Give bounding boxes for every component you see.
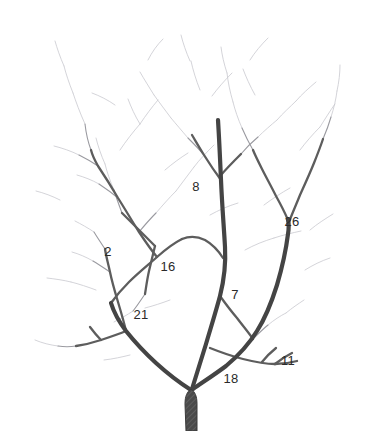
fine-twig-0 bbox=[85, 124, 91, 150]
branch-16-left-long bbox=[91, 150, 157, 257]
branch-21-left-twig bbox=[90, 327, 101, 340]
branch-8-upper-right bbox=[221, 154, 241, 175]
faint-twig-33 bbox=[71, 282, 96, 290]
faint-twig-group bbox=[35, 35, 340, 360]
faint-twig-41 bbox=[165, 153, 188, 170]
label-8: 8 bbox=[192, 180, 199, 193]
fine-twig-5 bbox=[139, 213, 156, 232]
faint-twig-13 bbox=[331, 91, 337, 117]
label-26: 26 bbox=[285, 215, 300, 228]
faint-twig-40 bbox=[92, 93, 115, 105]
faint-twig-22 bbox=[120, 124, 140, 150]
primary-branch-group bbox=[111, 120, 289, 390]
faint-twig-48 bbox=[320, 104, 335, 127]
branch-8-upper-left bbox=[192, 135, 221, 180]
branch-7-split bbox=[220, 296, 253, 339]
faint-twig-38 bbox=[181, 35, 190, 61]
faint-twig-3 bbox=[72, 252, 93, 261]
faint-twig-0 bbox=[73, 93, 85, 124]
faint-twig-44 bbox=[296, 82, 316, 101]
faint-twig-21 bbox=[337, 65, 340, 91]
faint-twig-29 bbox=[300, 127, 320, 150]
trunk bbox=[185, 389, 197, 431]
faint-twig-43 bbox=[104, 355, 130, 360]
branch-16-crossing-up bbox=[122, 213, 155, 246]
faint-twig-46 bbox=[140, 72, 154, 95]
faint-twig-25 bbox=[128, 99, 140, 124]
fine-twig-11 bbox=[241, 137, 258, 154]
figure-root: 2826162171811 bbox=[0, 0, 375, 431]
faint-twig-19 bbox=[277, 101, 296, 120]
branch-16-crossing-down bbox=[145, 246, 155, 294]
faint-twig-50 bbox=[47, 278, 71, 282]
label-16: 16 bbox=[161, 260, 176, 273]
label-21: 21 bbox=[134, 308, 149, 321]
faint-twig-31 bbox=[245, 238, 274, 250]
faint-twig-17 bbox=[286, 300, 304, 313]
faint-twig-36 bbox=[148, 39, 163, 60]
faint-twig-1 bbox=[54, 146, 79, 155]
faint-twig-45 bbox=[55, 41, 64, 66]
label-18: 18 bbox=[224, 372, 239, 385]
faint-twig-9 bbox=[268, 313, 286, 325]
faint-twig-37 bbox=[305, 258, 330, 270]
faint-twig-2 bbox=[75, 221, 94, 232]
faint-twig-18 bbox=[154, 95, 171, 118]
faint-twig-8 bbox=[35, 340, 58, 346]
faint-twig-4 bbox=[77, 175, 99, 184]
branching-tree-illustration bbox=[0, 0, 375, 431]
faint-twig-10 bbox=[171, 118, 188, 138]
branch-26-right bbox=[289, 139, 323, 222]
faint-twig-34 bbox=[310, 214, 333, 230]
faint-twig-32 bbox=[145, 300, 170, 308]
label-2: 2 bbox=[104, 245, 111, 258]
label-11: 11 bbox=[281, 354, 295, 367]
faint-twig-14 bbox=[64, 66, 73, 93]
branch-11-twig-a bbox=[262, 348, 276, 362]
faint-twig-28 bbox=[243, 69, 255, 95]
faint-twig-5 bbox=[156, 191, 176, 213]
fine-twig-8 bbox=[58, 346, 76, 347]
faint-twig-16 bbox=[96, 138, 105, 164]
faint-twig-39 bbox=[221, 47, 227, 73]
faint-twig-35 bbox=[250, 38, 268, 60]
faint-twig-23 bbox=[140, 100, 158, 124]
branch-16-to-crossing bbox=[182, 237, 223, 258]
faint-twig-12 bbox=[233, 102, 242, 128]
label-7: 7 bbox=[231, 288, 238, 301]
branch-26-left bbox=[253, 150, 288, 220]
faint-twig-26 bbox=[191, 61, 200, 90]
faint-twig-24 bbox=[36, 191, 60, 200]
faint-twig-11 bbox=[258, 120, 277, 137]
